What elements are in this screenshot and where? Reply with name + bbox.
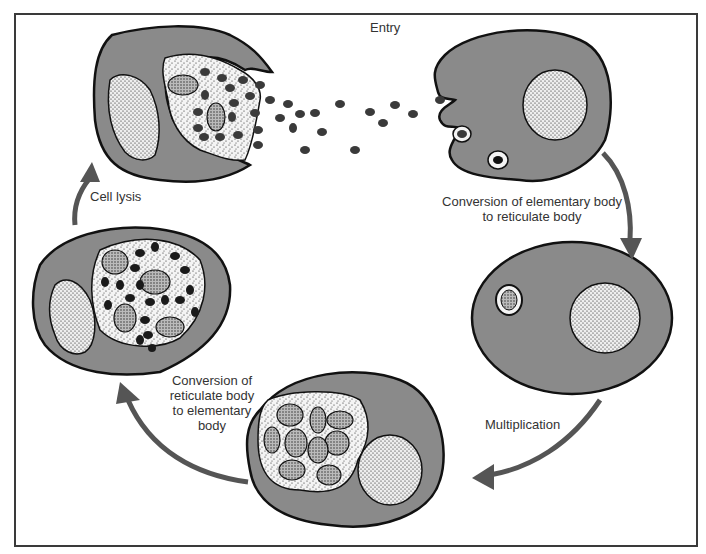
- label-rb-to-eb-line1: Conversion of: [162, 373, 262, 388]
- cell-single-rb: [472, 242, 672, 394]
- arrowhead-up-icon: [80, 162, 100, 182]
- cell-multiplying-rb: [247, 372, 444, 526]
- label-entry: Entry: [370, 20, 400, 35]
- label-cell-lysis: Cell lysis: [90, 189, 141, 204]
- label-eb-to-rb-line2: to reticulate body: [432, 209, 632, 224]
- arrowhead-up-left-icon: [116, 382, 140, 404]
- label-rb-to-eb-line2: reticulate body: [162, 388, 262, 403]
- arrow-cell-lysis: [75, 178, 90, 225]
- cell-mixed-inclusion: [33, 227, 230, 374]
- label-multiplication: Multiplication: [485, 417, 560, 432]
- arrow-multiplication: [490, 400, 600, 475]
- label-rb-to-eb: Conversion of reticulate body to element…: [162, 373, 262, 433]
- label-eb-to-rb: Conversion of elementary body to reticul…: [432, 194, 632, 224]
- label-rb-to-eb-line4: body: [162, 418, 262, 433]
- infected-cell-entry: [435, 30, 611, 181]
- lysing-cell: [94, 26, 418, 181]
- label-rb-to-eb-line3: to elementary: [162, 403, 262, 418]
- arrowhead-left-icon: [472, 464, 494, 490]
- label-eb-to-rb-line1: Conversion of elementary body: [432, 194, 632, 209]
- chlamydia-cycle-diagram: [0, 0, 706, 554]
